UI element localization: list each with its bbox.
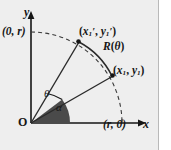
y-intercept-label: (0, r) xyxy=(2,26,26,38)
x-intercept-label: (r, 0) xyxy=(103,119,126,131)
paren-close: ) xyxy=(141,64,145,76)
operator-R: R xyxy=(103,40,111,52)
figure-canvas: y x O (0, r) (r, 0) (x1′, y1′) (x1, y1) … xyxy=(0,0,171,150)
point-marker-rotated xyxy=(76,39,81,44)
angle-theta-arc xyxy=(48,94,62,100)
x-axis-label: x xyxy=(143,118,149,130)
y-axis xyxy=(28,11,35,123)
ray-to-point-original xyxy=(31,76,113,123)
y-axis-label: y xyxy=(24,6,29,18)
paren-close: ) xyxy=(121,40,125,52)
rotation-operator-label: R(θ) xyxy=(103,41,124,53)
point-original-label: (x1, y1) xyxy=(113,65,144,77)
angle-theta-label: θ xyxy=(44,88,49,99)
point-rotated-label: (x1′, y1′) xyxy=(79,26,116,38)
origin-label: O xyxy=(18,116,27,128)
angle-alpha-label: α xyxy=(56,102,62,113)
paren-close: ) xyxy=(112,25,116,37)
